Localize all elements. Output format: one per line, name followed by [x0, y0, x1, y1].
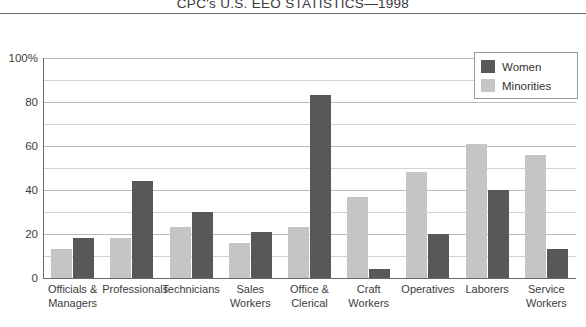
bar-women — [73, 238, 94, 278]
legend-label: Women — [502, 61, 541, 73]
bar-women — [488, 190, 509, 278]
x-tick-label: Professionals — [102, 283, 161, 297]
bar-women — [547, 249, 568, 278]
bar-women — [310, 95, 331, 278]
bar-minorities — [51, 249, 72, 278]
legend-swatch-icon — [481, 79, 495, 92]
bar-group — [43, 58, 102, 278]
chart-legend: WomenMinorities — [474, 52, 578, 99]
bar-group — [161, 58, 220, 278]
x-axis-line — [43, 278, 576, 279]
y-tick-label: 20 — [0, 228, 38, 240]
y-axis-line — [43, 58, 44, 279]
bar-minorities — [406, 172, 427, 278]
bar-women — [132, 181, 153, 278]
x-tick-label: Operatives — [398, 283, 457, 297]
bar-minorities — [170, 227, 191, 278]
x-tick-label: Sales Workers — [221, 283, 280, 310]
bar-group — [339, 58, 398, 278]
bar-minorities — [110, 238, 131, 278]
legend-item: Minorities — [481, 77, 571, 94]
x-axis-labels: Officials & ManagersProfessionalsTechnic… — [43, 283, 576, 325]
bar-women — [251, 232, 272, 278]
title-divider — [0, 13, 586, 14]
x-tick-label: Technicians — [161, 283, 220, 297]
bar-group — [398, 58, 457, 278]
bar-minorities — [466, 144, 487, 278]
bar-minorities — [288, 227, 309, 278]
x-tick-label: Craft Workers — [339, 283, 398, 310]
y-tick-label: 100% — [0, 52, 38, 64]
y-axis-labels: 020406080100% — [0, 0, 38, 327]
legend-label: Minorities — [502, 80, 551, 92]
bar-women — [192, 212, 213, 278]
bar-women — [369, 269, 390, 278]
chart-page: CPC's U.S. EEO STATISTICS—1998 020406080… — [0, 0, 586, 327]
page-title: CPC's U.S. EEO STATISTICS—1998 — [0, 0, 586, 11]
y-tick-label: 40 — [0, 184, 38, 196]
legend-swatch-icon — [481, 60, 495, 73]
bar-minorities — [347, 197, 368, 278]
y-tick-label: 60 — [0, 140, 38, 152]
bar-women — [428, 234, 449, 278]
x-tick-label: Officials & Managers — [43, 283, 102, 310]
x-tick-label: Office & Clerical — [280, 283, 339, 310]
x-tick-label: Laborers — [458, 283, 517, 297]
bar-minorities — [525, 155, 546, 278]
bar-group — [102, 58, 161, 278]
bar-minorities — [229, 243, 250, 278]
y-tick-label: 0 — [0, 272, 38, 284]
bar-group — [221, 58, 280, 278]
bar-group — [280, 58, 339, 278]
legend-item: Women — [481, 58, 571, 75]
y-tick-label: 80 — [0, 96, 38, 108]
x-tick-label: Service Workers — [517, 283, 576, 310]
